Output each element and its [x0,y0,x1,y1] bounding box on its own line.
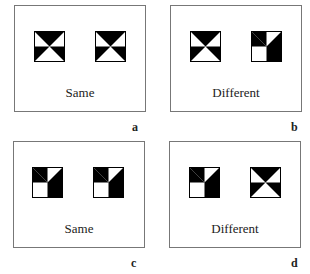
panel-label-a: a [132,120,138,135]
horizontal-hourglass-icon [95,31,126,62]
vertical-hourglass-icon [93,167,124,198]
panel-label-b: b [291,120,298,135]
panel-caption: Same [15,85,145,101]
horizontal-hourglass-icon [190,31,221,62]
panel-label-d: d [291,256,298,271]
panel-b: Different [170,5,302,112]
vertical-hourglass-icon [32,167,63,198]
panel-caption: Same [14,221,144,237]
vertical-hourglass-icon [189,167,220,198]
panel-a: Same [14,5,146,112]
panel-c: Same [13,141,145,248]
panel-caption: Different [170,221,300,237]
panel-caption: Different [171,85,301,101]
horizontal-hourglass-icon [250,167,281,198]
vertical-hourglass-icon [251,31,282,62]
panel-d: Different [169,141,301,248]
panel-label-c: c [131,256,136,271]
horizontal-hourglass-icon [34,31,65,62]
